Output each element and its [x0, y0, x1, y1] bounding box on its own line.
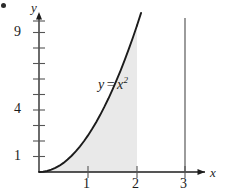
equation-operator: =	[105, 77, 117, 92]
y-axis-tick-label-9: 9	[14, 25, 21, 39]
y-axis-name-label: y	[31, 1, 37, 14]
x-axis-tick-label-3: 3	[180, 177, 187, 191]
plot-canvas	[0, 0, 225, 191]
x-axis-tick-label-1: 1	[83, 177, 90, 191]
y-axis-tick-label-1: 1	[14, 149, 21, 163]
equation-exponent: 2	[124, 75, 129, 85]
y-axis-tick-label-4: 4	[14, 102, 21, 116]
x-axis-arrowhead	[198, 169, 206, 175]
x-axis-tick-label-2: 2	[132, 177, 139, 191]
equation-base: x	[117, 77, 124, 92]
parabola-curve-upper	[137, 13, 141, 26]
x-axis-name-label: x	[210, 166, 216, 179]
curve-equation-label: y=x2	[98, 76, 128, 92]
figure-container: 9 4 1 1 2 3 y x y=x2	[0, 0, 225, 191]
shaded-area-under-curve	[39, 26, 137, 172]
equation-lhs: y	[98, 77, 105, 92]
